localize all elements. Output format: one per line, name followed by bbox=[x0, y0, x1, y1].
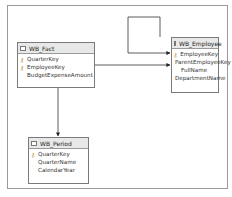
table-icon bbox=[174, 41, 176, 46]
column-row[interactable]: ⚷QuarterKey bbox=[29, 150, 88, 158]
column-row[interactable]: BudgetExpenseAmount bbox=[18, 71, 94, 79]
table-title: WB_Fact bbox=[29, 45, 54, 52]
table-icon bbox=[20, 46, 26, 51]
table-title: WB_Employee bbox=[179, 40, 222, 47]
column-row[interactable]: DepartmentName bbox=[172, 74, 218, 82]
table-wb-fact[interactable]: WB_Fact ⚷QuarterKey ⚷EmployeeKey BudgetE… bbox=[17, 42, 95, 88]
key-icon: ⚷ bbox=[19, 64, 25, 71]
table-header[interactable]: WB_Fact bbox=[18, 43, 94, 54]
relationship-employee-self[interactable] bbox=[128, 17, 170, 53]
table-icon bbox=[31, 141, 37, 146]
table-wb-period[interactable]: WB_Period ⚷QuarterKey QuarterName Calend… bbox=[28, 137, 89, 184]
table-header[interactable]: WB_Period bbox=[29, 138, 88, 149]
column-row[interactable]: ⚷EmployeeKey bbox=[18, 63, 94, 71]
table-header[interactable]: WB_Employee bbox=[172, 38, 218, 49]
column-row[interactable]: ⚷EmployeeKey bbox=[172, 50, 218, 58]
key-icon: ⚷ bbox=[30, 151, 36, 158]
column-row[interactable]: CalendarYear bbox=[29, 166, 88, 174]
column-row[interactable]: ⚷QuarterKey bbox=[18, 55, 94, 63]
column-row[interactable]: ParentEmployeeKey bbox=[172, 58, 218, 66]
table-wb-employee[interactable]: WB_Employee ⚷EmployeeKey ParentEmployeeK… bbox=[171, 37, 219, 93]
key-icon: ⚷ bbox=[19, 56, 25, 63]
key-icon: ⚷ bbox=[173, 51, 178, 58]
table-title: WB_Period bbox=[40, 140, 72, 147]
column-row[interactable]: FullName bbox=[172, 66, 218, 74]
column-row[interactable]: QuarterName bbox=[29, 158, 88, 166]
